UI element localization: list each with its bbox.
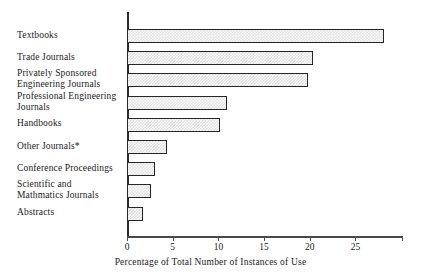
x-axis-tick-label: 20 <box>298 242 322 252</box>
category-label-line: Textbooks <box>17 30 125 41</box>
category-label-line: Other Journals* <box>17 141 125 152</box>
bar-row <box>127 29 384 43</box>
category-label: Other Journals* <box>17 141 125 152</box>
x-axis-tick-label: 25 <box>343 242 367 252</box>
category-label: Privately SponsoredEngineering Journals <box>17 68 125 90</box>
category-label: Scientific andMathmatics Journals <box>17 179 125 201</box>
bar-row <box>127 140 167 154</box>
bar-row <box>127 51 313 65</box>
category-label-line: Abstracts <box>17 207 125 218</box>
bar-row <box>127 96 227 110</box>
bar <box>127 140 167 154</box>
x-axis-end-tick <box>402 236 403 241</box>
category-label-line: Handbooks <box>17 118 125 129</box>
category-label: Conference Proceedings <box>17 163 125 174</box>
category-label-line: Privately Sponsored <box>17 68 125 79</box>
category-label-line: Professional Engineering <box>17 91 125 102</box>
category-label: Textbooks <box>17 30 125 41</box>
category-label-line: Scientific and <box>17 179 125 190</box>
bar <box>127 51 313 65</box>
category-label: Handbooks <box>17 118 125 129</box>
bar-row <box>127 73 308 87</box>
category-label-line: Journals <box>17 102 125 113</box>
bar-row <box>127 207 143 221</box>
bar <box>127 207 143 221</box>
bar <box>127 29 384 43</box>
x-axis-title: Percentage of Total Number of Instances … <box>0 257 421 267</box>
bar <box>127 162 155 176</box>
category-label: Abstracts <box>17 207 125 218</box>
x-axis-tick-label: 10 <box>206 242 230 252</box>
bar-row <box>127 184 151 198</box>
category-label-line: Trade Journals <box>17 52 125 63</box>
bar-row <box>127 118 220 132</box>
x-axis-tick-label: 0 <box>115 242 139 252</box>
x-axis-tick <box>218 236 219 241</box>
bar <box>127 73 308 87</box>
bar <box>127 118 220 132</box>
x-axis-tick <box>173 236 174 241</box>
category-label-line: Engineering Journals <box>17 79 125 90</box>
category-label-line: Conference Proceedings <box>17 163 125 174</box>
category-label-line: Mathmatics Journals <box>17 190 125 201</box>
category-label: Professional EngineeringJournals <box>17 91 125 113</box>
x-axis-tick <box>264 236 265 241</box>
bar-chart: TextbooksTrade JournalsPrivately Sponsor… <box>0 0 421 279</box>
x-axis-tick <box>355 236 356 241</box>
bar <box>127 184 151 198</box>
x-axis-tick-label: 5 <box>161 242 185 252</box>
x-axis-tick <box>310 236 311 241</box>
x-axis-tick-label: 15 <box>252 242 276 252</box>
x-axis-tick <box>127 236 128 241</box>
bar <box>127 96 227 110</box>
category-label: Trade Journals <box>17 52 125 63</box>
bar-row <box>127 162 155 176</box>
